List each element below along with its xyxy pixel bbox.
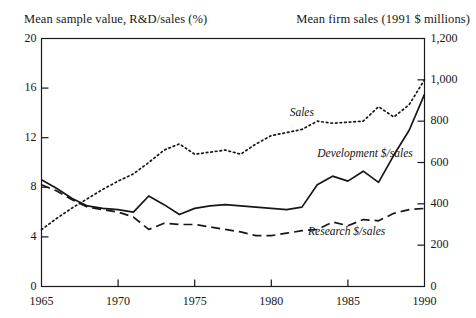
x-tick-label: 1975 bbox=[165, 294, 225, 309]
right-tick-label: 0 bbox=[431, 279, 437, 294]
left-tick-label: 0 bbox=[31, 279, 37, 294]
x-tick-label: 1990 bbox=[395, 294, 455, 309]
right-tick-label: 600 bbox=[431, 155, 449, 170]
x-tick-label: 1970 bbox=[88, 294, 148, 309]
series-annotation: Development $/sales bbox=[317, 147, 413, 159]
right-tick-label: 400 bbox=[431, 196, 449, 211]
right-tick-label: 200 bbox=[431, 237, 449, 252]
series-annotation: Research $/sales bbox=[308, 225, 385, 237]
plot-frame bbox=[42, 39, 425, 287]
left-tick-label: 12 bbox=[25, 130, 37, 145]
left-tick-label: 4 bbox=[31, 229, 37, 244]
right-tick-label: 1,200 bbox=[431, 31, 458, 46]
x-tick-label: 1980 bbox=[241, 294, 301, 309]
chart-figure: Mean sample value, R&D/sales (%) Mean fi… bbox=[0, 0, 476, 318]
axis-ticks bbox=[42, 80, 425, 287]
series-annotation: Sales bbox=[290, 106, 314, 118]
left-tick-label: 20 bbox=[25, 31, 37, 46]
left-tick-label: 16 bbox=[25, 80, 37, 95]
right-tick-label: 1,000 bbox=[431, 72, 458, 87]
x-tick-label: 1985 bbox=[318, 294, 378, 309]
right-tick-label: 800 bbox=[431, 113, 449, 128]
left-tick-label: 8 bbox=[31, 179, 37, 194]
x-tick-label: 1965 bbox=[12, 294, 72, 309]
